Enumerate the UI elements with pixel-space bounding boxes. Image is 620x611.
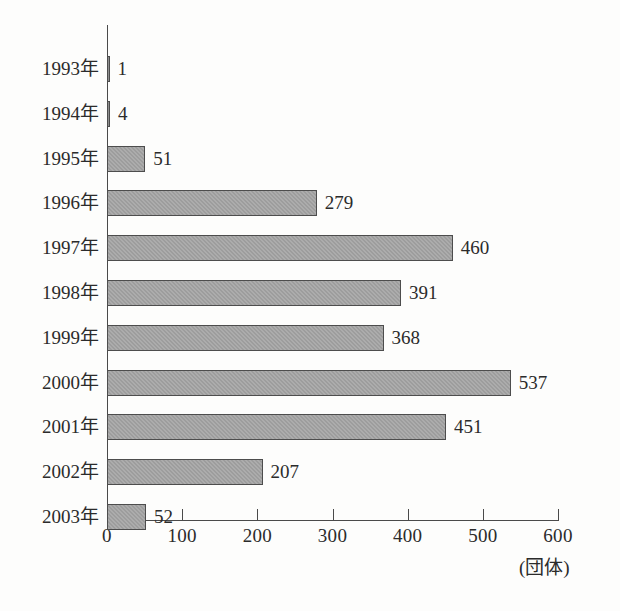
bar bbox=[107, 235, 453, 261]
category-label: 1997年 bbox=[0, 235, 99, 261]
bar-value-label: 207 bbox=[271, 459, 300, 485]
bar-row: 1993年1 bbox=[0, 56, 620, 82]
bar-row: 1998年391 bbox=[0, 280, 620, 306]
category-label: 1993年 bbox=[0, 56, 99, 82]
category-label: 1996年 bbox=[0, 190, 99, 216]
bar bbox=[107, 280, 401, 306]
y-axis-line bbox=[107, 25, 108, 521]
category-label: 2001年 bbox=[0, 414, 99, 440]
bar-value-label: 537 bbox=[519, 370, 548, 396]
bar-row: 1999年368 bbox=[0, 325, 620, 351]
bar bbox=[107, 459, 263, 485]
bar-value-label: 279 bbox=[325, 190, 354, 216]
bar bbox=[107, 414, 446, 440]
bar-value-label: 391 bbox=[409, 280, 438, 306]
bar-row: 2000年537 bbox=[0, 370, 620, 396]
bar-row: 1994年4 bbox=[0, 101, 620, 127]
bar-chart: 0100200300400500600 1993年11994年41995年511… bbox=[0, 0, 620, 611]
bar-row: 1996年279 bbox=[0, 190, 620, 216]
bar-row: 2002年207 bbox=[0, 459, 620, 485]
category-label: 2000年 bbox=[0, 370, 99, 396]
bar-value-label: 1 bbox=[118, 56, 128, 82]
bar-row: 2003年52 bbox=[0, 504, 620, 530]
bar bbox=[107, 146, 145, 172]
bar-value-label: 4 bbox=[118, 101, 128, 127]
bar-value-label: 51 bbox=[153, 146, 172, 172]
bar bbox=[107, 325, 384, 351]
category-label: 1995年 bbox=[0, 146, 99, 172]
bar bbox=[107, 56, 110, 82]
bar bbox=[107, 370, 511, 396]
bar-row: 1997年460 bbox=[0, 235, 620, 261]
bar-value-label: 368 bbox=[392, 325, 421, 351]
bar-row: 1995年51 bbox=[0, 146, 620, 172]
bar-row: 2001年451 bbox=[0, 414, 620, 440]
bar bbox=[107, 504, 146, 530]
category-label: 1999年 bbox=[0, 325, 99, 351]
bar-value-label: 52 bbox=[154, 504, 173, 530]
bar bbox=[107, 101, 110, 127]
category-label: 2002年 bbox=[0, 459, 99, 485]
bar bbox=[107, 190, 317, 216]
category-label: 1994年 bbox=[0, 101, 99, 127]
bar-value-label: 460 bbox=[461, 235, 490, 261]
category-label: 2003年 bbox=[0, 504, 99, 530]
bar-value-label: 451 bbox=[454, 414, 483, 440]
category-label: 1998年 bbox=[0, 280, 99, 306]
x-axis-unit-label: (団体) bbox=[519, 552, 570, 579]
